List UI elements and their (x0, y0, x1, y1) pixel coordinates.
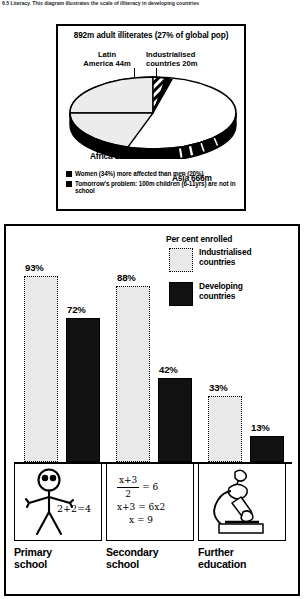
equation-line-3: x = 9 (117, 514, 187, 527)
illustration-box-secondary: x+3 2 = 6 x+3 = 6x2 x = 9 (106, 463, 194, 541)
pie-svg (68, 73, 238, 159)
bar-primary-developing (66, 318, 100, 462)
category-line1: Further (198, 546, 234, 558)
legend-swatch-icon (66, 171, 72, 177)
bar-secondary-developing (158, 378, 192, 462)
bar-value-further-industrialised: 33% (209, 382, 228, 393)
bar-value-secondary-industrialised: 88% (117, 272, 136, 283)
category-line2: education (198, 558, 246, 570)
fraction: x+3 2 (117, 474, 139, 501)
category-line1: Primary (14, 546, 52, 558)
pie-chart-panel: 892m adult illiterates (27% of global po… (56, 24, 246, 211)
category-line1: Secondary (106, 546, 158, 558)
bar-chart-panel: Per cent enrolled Industrialised countri… (4, 224, 300, 596)
bar-primary-industrialised (24, 276, 58, 462)
equation-line-2: x+3 = 6x2 (117, 501, 187, 514)
bar-secondary-industrialised (116, 286, 150, 462)
bar-further-industrialised (208, 396, 242, 462)
figure-caption: 6.5 Literacy. This diagram illustrates t… (2, 0, 302, 6)
pie-graphic: Africa 162m Asia 666m (68, 73, 238, 159)
pie-chart-title: 892m adult illiterates (27% of global po… (58, 31, 244, 40)
pie-label-industrialised-line1: Industrialised (146, 50, 195, 59)
bar-value-secondary-developing: 42% (159, 364, 178, 375)
microscope-icon (199, 464, 284, 539)
pie-label-latin-line2: America 44m (83, 59, 130, 68)
pie-legend-text: Women (34%) more affected than men (20%) (75, 170, 204, 178)
pie-label-latin-america: Latin America 44m (74, 50, 140, 68)
illustration-box-primary: 2+2=4 (14, 463, 102, 541)
bar-value-further-developing: 13% (251, 422, 270, 433)
category-line2: school (14, 558, 47, 570)
pie-label-industrialised: Industrialised countries 20m (146, 50, 238, 68)
pie-legend-text: Tomorrow's problem: 100m children (6-11y… (75, 180, 242, 195)
algebra-equations: x+3 2 = 6 x+3 = 6x2 x = 9 (117, 474, 187, 527)
infographic-page: 6.5 Literacy. This diagram illustrates t… (0, 0, 304, 599)
bar-value-primary-industrialised: 93% (25, 262, 44, 273)
pie-label-industrialised-line2: countries 20m (146, 59, 198, 68)
equation-rhs: = 6 (142, 482, 158, 492)
equation-line-1: x+3 2 = 6 (117, 474, 187, 501)
illustration-box-further (198, 463, 286, 541)
bar-group-further: 33% 13% (208, 262, 288, 462)
bar-group-secondary: 88% 42% (116, 262, 196, 462)
category-line2: school (106, 558, 139, 570)
legend-swatch-icon (66, 181, 72, 187)
bar-value-primary-developing: 72% (67, 304, 86, 315)
pie-label-latin-line1: Latin (98, 50, 116, 59)
pie-legend: Women (34%) more affected than men (20%)… (66, 170, 242, 197)
bar-category-label-secondary: Secondary school (106, 546, 158, 571)
pie-legend-item: Tomorrow's problem: 100m children (6-11y… (66, 180, 242, 195)
bar-further-developing (250, 436, 284, 462)
fraction-denominator: 2 (117, 488, 139, 501)
fraction-numerator: x+3 (117, 474, 139, 488)
bar-group-primary: 93% 72% (24, 262, 104, 462)
pie-legend-item: Women (34%) more affected than men (20%) (66, 170, 242, 178)
stick-figure-icon: 2+2=4 (15, 464, 100, 539)
stick-figure-caption: 2+2=4 (57, 503, 91, 514)
bar-category-label-further: Further education (198, 546, 246, 571)
bar-category-label-primary: Primary school (14, 546, 52, 571)
pie-label-africa: Africa 162m (90, 151, 135, 161)
bar-plot-area: 93% 72% 88% 42% 33% 13% (6, 226, 298, 594)
